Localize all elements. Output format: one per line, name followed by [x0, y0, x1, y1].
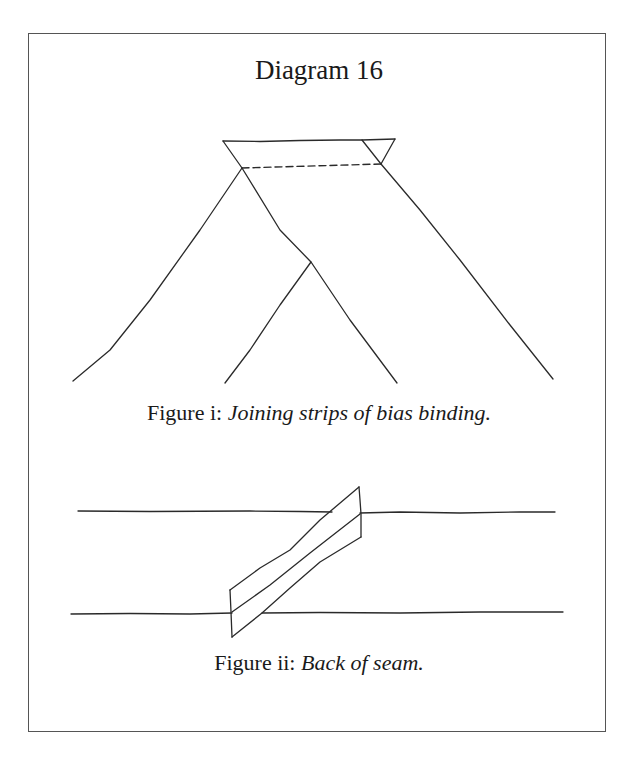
- triangle-inner-edge: [362, 140, 381, 164]
- strip-top-edge: [223, 139, 395, 142]
- right-strip-lower-edge: [225, 262, 311, 383]
- left-strip-outer-edge: [73, 168, 242, 381]
- right-strip-outer-edge: [381, 164, 553, 379]
- triangle-outer-edge: [381, 139, 395, 164]
- strip-left-upper-edge: [223, 141, 242, 168]
- figure-i-drawing: [73, 139, 553, 383]
- figure-i-label: Figure i:: [147, 400, 222, 425]
- upper-line-right: [360, 512, 555, 513]
- figure-ii-description: Back of seam.: [301, 650, 424, 675]
- lower-line-right: [262, 612, 563, 613]
- seam-strip-top-edge: [230, 487, 359, 590]
- left-strip-inner-edge: [242, 168, 397, 383]
- figure-ii-label: Figure ii:: [214, 650, 295, 675]
- figure-ii-caption: Figure ii: Back of seam.: [0, 650, 638, 676]
- seam-dashed-line: [242, 164, 381, 168]
- seam-strip-right-edge: [359, 487, 361, 537]
- seam-strip-bottom-edge: [232, 537, 361, 637]
- figure-i-caption: Figure i: Joining strips of bias binding…: [0, 400, 638, 426]
- lower-line-left: [71, 613, 232, 614]
- figure-i-description: Joining strips of bias binding.: [228, 400, 491, 425]
- upper-line-left: [78, 511, 332, 512]
- figure-ii-drawing: [71, 487, 563, 637]
- seam-strip-fold-line: [232, 514, 360, 612]
